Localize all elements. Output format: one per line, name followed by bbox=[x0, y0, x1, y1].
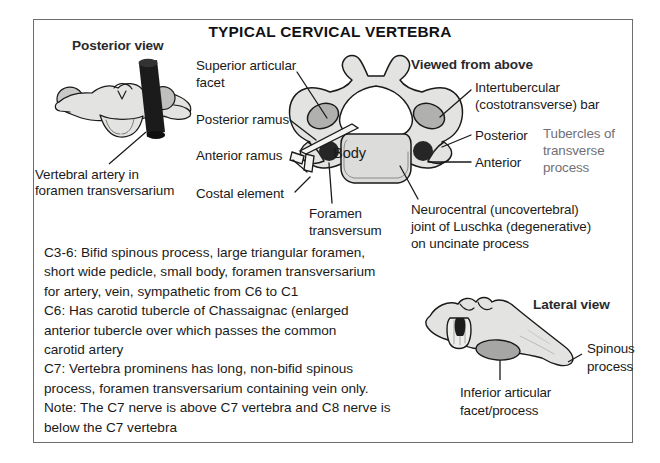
label-superior-articular-facet-line1: Superior articular bbox=[196, 58, 296, 75]
posterior-view-heading: Posterior view bbox=[72, 38, 164, 55]
label-foramen-transversum-line1: Foramen bbox=[309, 206, 362, 223]
label-foramen-transversum-line2: transversum bbox=[309, 223, 382, 240]
note-line-7: C7: Vertebra prominens has long, non-bif… bbox=[44, 359, 444, 378]
posterior-view-illustration bbox=[54, 58, 199, 173]
label-tubercle-anterior: Anterior bbox=[475, 155, 521, 172]
label-intertubercular-line1: Intertubercular bbox=[475, 80, 560, 97]
posterior-caption-line2: foramen transversarium bbox=[35, 183, 174, 200]
label-neurocentral-line1: Neurocentral (uncovertebral) bbox=[411, 202, 579, 219]
lateral-view-illustration bbox=[424, 292, 584, 382]
label-intertubercular-line2: (costotransverse) bar bbox=[475, 97, 599, 114]
label-anterior-ramus: Anterior ramus bbox=[196, 148, 282, 165]
label-neurocentral-line2: joint of Luschka (degenerative) bbox=[411, 219, 591, 236]
vertebral-body-label: Body bbox=[333, 145, 366, 162]
label-tubercles-of-line2: transverse bbox=[543, 143, 605, 160]
label-posterior-ramus: Posterior ramus bbox=[196, 112, 289, 129]
note-line-8: process, foramen transversarium containi… bbox=[44, 379, 444, 398]
note-line-1: C3-6: Bifid spinous process, large trian… bbox=[44, 243, 444, 262]
label-tubercles-of-line1: Tubercles of bbox=[543, 126, 615, 143]
superior-view-illustration bbox=[286, 52, 466, 204]
label-inferior-facet-line1: Inferior articular bbox=[460, 385, 551, 402]
note-line-2: short wide pedicle, small body, foramen … bbox=[44, 262, 444, 281]
posterior-caption-line1: Vertebral artery in bbox=[35, 167, 139, 184]
note-line-3: for artery, vein, sympathetic from C6 to… bbox=[44, 282, 444, 301]
note-line-5: anterior tubercle over which passes the … bbox=[44, 321, 444, 340]
label-superior-articular-facet-line2: facet bbox=[196, 75, 225, 92]
label-spinous-process-line1: Spinous bbox=[587, 341, 635, 358]
cervical-vertebra-figure: TYPICAL CERVICAL VERTEBRA Posterior view bbox=[0, 0, 660, 463]
note-line-9: Note: The C7 nerve is above C7 vertebra … bbox=[44, 398, 444, 417]
label-costal-element: Costal element bbox=[196, 186, 284, 203]
label-spinous-process-line2: process bbox=[587, 359, 633, 376]
label-tubercle-posterior: Posterior bbox=[475, 128, 528, 145]
label-inferior-facet-line2: facet/process bbox=[460, 403, 538, 420]
note-line-6: carotid artery bbox=[44, 340, 444, 359]
notes-text-block: C3-6: Bifid spinous process, large trian… bbox=[44, 243, 444, 437]
foramen-transversum-right-hole bbox=[413, 141, 433, 161]
note-line-4: C6: Has carotid tubercle of Chassaignac … bbox=[44, 301, 444, 320]
label-tubercles-of-line3: process bbox=[543, 160, 589, 177]
note-line-10: below the C7 vertebra bbox=[44, 418, 444, 437]
